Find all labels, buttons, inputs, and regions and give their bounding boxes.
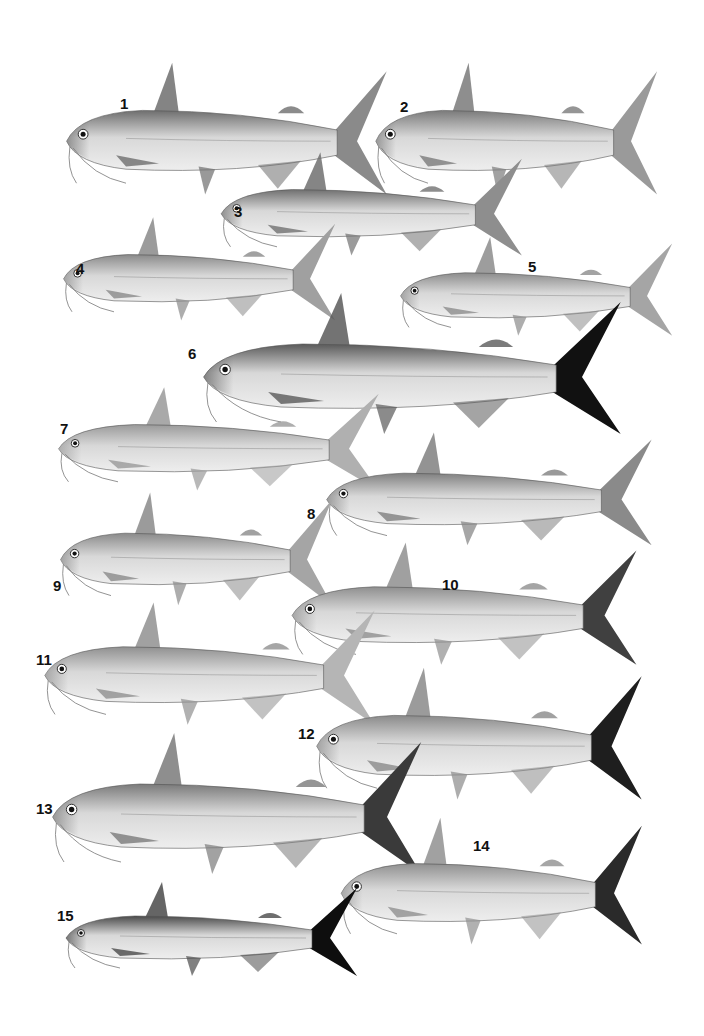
catfish-illustration-plate: 1: [0, 0, 704, 1036]
specimen-number-label: 4: [76, 260, 84, 277]
specimen-number-label: 14: [473, 837, 490, 854]
specimen-number-label: 2: [400, 98, 408, 115]
specimen-number-label: 1: [120, 95, 128, 112]
specimen-number-label: 5: [528, 258, 536, 275]
specimen-number-label: 6: [188, 345, 196, 362]
specimen-number-label: 10: [442, 576, 459, 593]
specimen-number-label: 9: [53, 577, 61, 594]
fish-specimen-8: [320, 430, 655, 550]
specimen-number-label: 13: [36, 800, 53, 817]
specimen-number-label: 11: [36, 651, 52, 668]
fish-specimen-15: [60, 880, 360, 980]
specimen-number-label: 7: [60, 420, 68, 437]
fish-specimen-14: [335, 815, 645, 950]
specimen-number-label: 15: [57, 907, 74, 924]
